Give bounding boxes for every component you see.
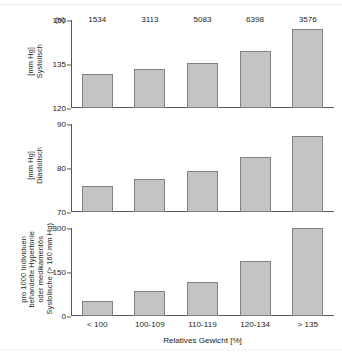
y-axis-tick: 300	[52, 224, 66, 233]
bar	[134, 179, 165, 212]
bar	[240, 157, 271, 212]
y-axis-tick: 90	[57, 120, 66, 129]
y-axis-label-line: behandelte Hypertonie	[28, 231, 37, 307]
bar	[292, 228, 323, 316]
panel-systolisch: (n) 1534 3113 5083 6398 3576 Systolisch …	[0, 14, 342, 110]
x-axis-title: Relatives Gewicht [%]	[71, 336, 334, 345]
y-axis-label-diastolisch: Diastolisch [mm Hg]	[26, 118, 46, 212]
x-axis-category: > 135	[285, 320, 331, 329]
bar	[82, 74, 113, 108]
bar	[187, 282, 218, 316]
y-axis-tick: 80	[57, 164, 66, 173]
bar	[292, 136, 323, 212]
y-axis-label-line: Systolisch	[36, 44, 45, 78]
scan-edge-artifact-bottom	[0, 349, 342, 350]
bar	[240, 261, 271, 316]
bar	[134, 69, 165, 108]
y-axis-ticks-systolisch: 120 135 150	[46, 14, 66, 108]
y-axis-label-line: oder medikamentös	[37, 236, 46, 303]
scan-edge-artifact-top	[0, 4, 342, 5]
bar	[82, 301, 113, 316]
x-axis-category: < 100	[74, 320, 120, 329]
y-axis-ticks-diastolisch: 70 80 90	[46, 118, 66, 212]
bar	[240, 51, 271, 108]
plot-area-diastolisch	[71, 124, 334, 212]
bar-series-diastolisch	[71, 124, 334, 212]
x-axis-category: 110-119	[179, 320, 225, 329]
y-axis-label-line: [mm Hg]	[27, 47, 36, 76]
y-axis-label-systolisch: Systolisch [mm Hg]	[26, 14, 46, 108]
y-axis-tick: 135	[52, 60, 66, 69]
panel-diastolisch: Diastolisch [mm Hg] 70 80 90	[0, 118, 342, 214]
panel-hypertonie: Systolische (> 160 mm Hg) oder medikamen…	[0, 222, 342, 318]
y-axis-label-line: pro 1000 Individuen	[20, 236, 29, 303]
x-axis-category: 120-134	[232, 320, 278, 329]
x-axis-category: 100-109	[127, 320, 173, 329]
y-axis-label-line: [mm Hg]	[27, 151, 36, 180]
y-axis-label-line: Diastolisch	[36, 147, 45, 184]
plot-area-systolisch	[71, 20, 334, 108]
bar	[292, 29, 323, 108]
y-axis-tick: 150	[52, 16, 66, 25]
y-axis-tick: 150	[52, 268, 66, 277]
plot-area-hypertonie	[71, 228, 334, 316]
x-axis-category-labels: < 100 100-109 110-119 120-134 > 135	[71, 320, 334, 329]
bar-chart-figure: (n) 1534 3113 5083 6398 3576 Systolisch …	[0, 0, 342, 353]
bar	[187, 171, 218, 212]
y-axis-tick: 0	[61, 312, 66, 321]
bar	[82, 186, 113, 212]
bar	[187, 63, 218, 108]
bar	[134, 291, 165, 316]
bar-series-systolisch	[71, 20, 334, 108]
y-axis-ticks-hypertonie: 0 150 300	[46, 222, 66, 316]
y-axis-tick: 120	[52, 104, 66, 113]
y-axis-tick: 70	[57, 208, 66, 217]
bar-series-hypertonie	[71, 228, 334, 316]
